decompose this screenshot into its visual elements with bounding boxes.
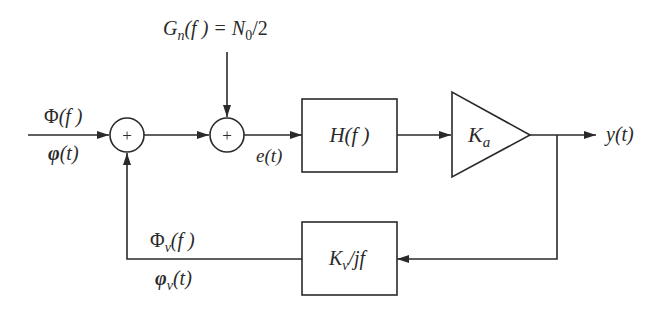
amplifier-block (452, 92, 530, 177)
filter-label: H(f ) (328, 123, 369, 147)
feedback-freq-label: Φv(f ) (150, 229, 195, 255)
feedback-time-label: φv(t) (155, 267, 192, 293)
vco-label: Kv/jf (328, 247, 368, 273)
output-label: y(t) (604, 123, 634, 146)
noise-psd-label: Gn(f ) = N0/2 (163, 17, 268, 43)
sum1-plus-symbol: + (122, 126, 132, 145)
error-label: e(t) (256, 145, 282, 167)
input-time-label: φ(t) (48, 142, 79, 165)
input-freq-label: Φ(f ) (44, 105, 83, 128)
pll-block-diagram: + + Φ(f ) φ(t) Gn(f ) = N0/2 e(t) H(f ) … (0, 0, 657, 317)
sum2-plus-symbol: + (222, 126, 232, 145)
amplifier-gain-label: Ka (467, 122, 490, 150)
feedback-branch-line (397, 135, 557, 259)
